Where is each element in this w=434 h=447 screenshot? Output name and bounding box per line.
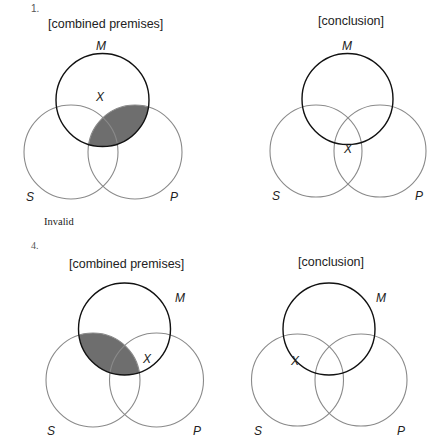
venn-premises-1 bbox=[24, 54, 182, 200]
label-s: S bbox=[47, 424, 55, 438]
verdict-text: Invalid bbox=[44, 216, 74, 227]
conclusion-heading-4: [conclusion] bbox=[298, 255, 364, 269]
label-m: M bbox=[342, 39, 352, 53]
problem-number-4: 4. bbox=[31, 240, 39, 251]
label-s: S bbox=[26, 190, 34, 204]
circle-p bbox=[315, 334, 407, 426]
x-mark: X bbox=[96, 90, 104, 104]
circle-s bbox=[252, 334, 344, 426]
x-mark: X bbox=[291, 354, 299, 368]
x-mark: X bbox=[143, 352, 151, 366]
circle-p bbox=[110, 333, 204, 427]
circle-s bbox=[24, 105, 118, 199]
x-mark: X bbox=[344, 142, 352, 156]
premises-heading-4: [combined premises] bbox=[69, 257, 184, 271]
label-p: P bbox=[415, 189, 423, 203]
label-m: M bbox=[376, 291, 386, 305]
label-s: S bbox=[272, 189, 280, 203]
circle-m bbox=[302, 54, 393, 145]
label-m: M bbox=[175, 291, 185, 305]
label-p: P bbox=[170, 190, 178, 204]
label-s: S bbox=[254, 424, 262, 438]
label-p: P bbox=[397, 424, 405, 438]
label-p: P bbox=[193, 424, 201, 438]
venn-conclusion-1 bbox=[270, 54, 426, 198]
label-m: M bbox=[96, 39, 106, 53]
